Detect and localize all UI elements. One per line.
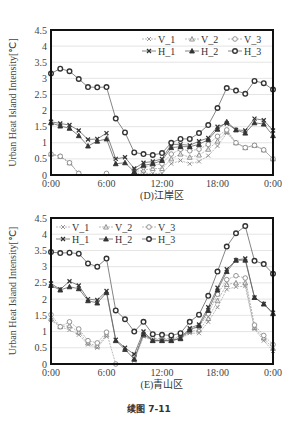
V_3-marker [58, 324, 63, 329]
x-tick-label: 0:00 [42, 367, 60, 378]
y-tick-label: 3 [42, 73, 47, 84]
H_3-marker [132, 329, 137, 334]
y-axis-label: Urban Heat Island Intensity[℃] [7, 38, 18, 166]
H_3-marker [67, 69, 72, 74]
x-tick-label: 18:00 [206, 367, 229, 378]
series-v-1 [49, 284, 275, 363]
H_3-marker [215, 106, 220, 111]
V_1-marker [225, 287, 229, 291]
H_2-marker [123, 160, 128, 165]
H_2-marker [67, 284, 72, 289]
H_3-marker [113, 308, 118, 313]
V_3-marker [169, 152, 174, 157]
V_1-marker [216, 305, 220, 309]
legend-H_3-marker [147, 237, 152, 242]
H_3-marker [252, 259, 257, 264]
legend-label: V_3 [158, 222, 175, 233]
H_3-marker [123, 317, 128, 322]
V_3-marker [243, 276, 248, 281]
y-tick-label: 2.5 [35, 89, 48, 100]
series-v-3 [49, 273, 276, 366]
H_3-marker [160, 151, 165, 156]
H_3-marker [178, 331, 183, 336]
y-tick-label: 3.5 [35, 245, 48, 256]
y-tick-label: 2 [42, 294, 47, 305]
V_3-marker [224, 277, 229, 282]
H_3-marker [224, 244, 229, 249]
V_3-marker [234, 273, 239, 278]
x-tick-label: 6:00 [98, 367, 116, 378]
series-h-3 [49, 66, 276, 157]
H_3-marker [187, 320, 192, 325]
V_3-marker [67, 160, 72, 165]
V_3-marker [58, 154, 63, 159]
H_3-marker [169, 333, 174, 338]
chart-title: (D)江岸区 [140, 190, 184, 202]
H_3-marker [261, 262, 266, 267]
H_3-marker [206, 123, 211, 128]
H_2-marker [224, 119, 229, 124]
H_2-marker [215, 288, 220, 293]
H_3-marker [197, 312, 202, 317]
H_3-marker [215, 269, 220, 274]
V_1-marker [197, 159, 201, 163]
H_3-marker [104, 256, 109, 261]
chart-jiangan: 00.511.522.533.544.50:006:0012:0018:000:… [7, 25, 282, 203]
V_1-marker [188, 162, 192, 166]
H_3-marker [76, 251, 81, 256]
V_3-marker [243, 145, 248, 150]
H_3-marker [178, 137, 183, 142]
V_3-marker [261, 333, 266, 338]
V_3-marker [95, 341, 100, 346]
x-tick-label: 0:00 [264, 178, 282, 189]
V_1-marker [206, 154, 210, 158]
legend-H_2-marker [104, 237, 109, 242]
y-tick-label: 3 [42, 261, 47, 272]
y-tick-label: 1.5 [35, 121, 48, 132]
legend: V_1V_2V_3H_1H_2H_3 [142, 34, 261, 57]
y-tick-label: 4 [42, 41, 47, 52]
V_3-marker [206, 142, 211, 147]
V_3-marker [261, 148, 266, 153]
legend-V_1-marker [147, 37, 151, 41]
V_3-marker [252, 143, 257, 148]
H_3-marker [160, 333, 165, 338]
y-tick-label: 1 [42, 137, 47, 148]
V_1-marker [216, 144, 220, 148]
y-tick-label: 0.5 [35, 153, 48, 164]
H_3-marker [58, 251, 63, 256]
chart-qingshan: 00.511.522.533.544.50:006:0012:0018:000:… [7, 213, 282, 392]
H_3-marker [252, 79, 257, 84]
H_3-marker [206, 294, 211, 299]
H_3-marker [95, 85, 100, 90]
V_3-marker [86, 338, 91, 343]
legend-label: H_2 [201, 46, 218, 57]
legend-label: H_3 [244, 46, 261, 57]
chart-title: (E)青山区 [141, 378, 184, 391]
H_3-marker [104, 85, 109, 90]
H_3-marker [67, 250, 72, 255]
V_3-marker [215, 134, 220, 139]
V_3-marker [67, 320, 72, 325]
y-tick-label: 0.5 [35, 342, 48, 353]
V_3-marker [197, 147, 202, 152]
y-tick-label: 2.5 [35, 277, 48, 288]
H_3-marker [86, 85, 91, 90]
series-v-2 [49, 280, 276, 361]
H_3-marker [76, 77, 81, 82]
V_1-marker [169, 162, 173, 166]
V_3-marker [104, 330, 109, 335]
H_2-marker [197, 323, 202, 328]
H_3-marker [197, 131, 202, 136]
legend-label: V_2 [201, 34, 218, 45]
V_3-marker [234, 140, 239, 145]
legend-label: V_2 [115, 222, 132, 233]
H_3-marker [132, 150, 137, 155]
legend-V_3-marker [147, 225, 152, 230]
figure-canvas: 00.511.522.533.544.50:006:0012:0018:000:… [0, 0, 298, 428]
H_3-marker [243, 224, 248, 229]
x-tick-label: 18:00 [206, 178, 229, 189]
legend-H_3-marker [233, 49, 238, 54]
H_3-marker [123, 130, 128, 135]
legend-label: H_1 [72, 234, 89, 245]
